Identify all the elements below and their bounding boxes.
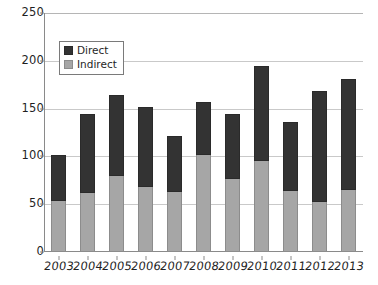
bar-group-2012[interactable]	[312, 13, 328, 252]
bar-segment-direct-2004[interactable]	[80, 114, 96, 192]
bar-group-2011[interactable]	[283, 13, 299, 252]
bar-group-2009[interactable]	[225, 13, 241, 252]
x-tick-label-2005: 2005	[101, 260, 133, 272]
bar-group-2010[interactable]	[254, 13, 270, 252]
bar-stack-2008	[196, 102, 212, 252]
bar-group-2013[interactable]	[341, 13, 357, 252]
bar-segment-indirect-2012[interactable]	[312, 202, 328, 252]
bar-group-2007[interactable]	[167, 13, 183, 252]
bar-segment-indirect-2008[interactable]	[196, 155, 212, 252]
legend-label-direct: Direct	[77, 45, 108, 56]
bar-segment-indirect-2007[interactable]	[167, 192, 183, 252]
bar-segment-direct-2012[interactable]	[312, 91, 328, 202]
y-tick-label-0: 0	[4, 246, 44, 258]
x-tick-label-2004: 2004	[72, 260, 104, 272]
bar-stack-2011	[283, 122, 299, 252]
bar-stack-2005	[109, 95, 125, 252]
y-tick-label-50: 50	[4, 198, 44, 210]
bar-stack-2009	[225, 114, 241, 252]
legend-label-indirect: Indirect	[77, 59, 117, 70]
bar-segment-direct-2013[interactable]	[341, 79, 357, 190]
y-tick-label-250: 250	[4, 7, 44, 19]
bar-segment-indirect-2003[interactable]	[51, 201, 67, 252]
x-tick-label-2010: 2010	[246, 260, 278, 272]
stacked-bar-chart: 050100150200250 200320042005200620072008…	[0, 0, 378, 285]
bar-segment-indirect-2013[interactable]	[341, 190, 357, 252]
chart-legend: Direct Indirect	[59, 41, 124, 75]
y-tick-label-200: 200	[4, 55, 44, 67]
bar-segment-direct-2008[interactable]	[196, 102, 212, 156]
x-tick-label-2006: 2006	[130, 260, 162, 272]
bar-group-2006[interactable]	[138, 13, 154, 252]
bar-group-2008[interactable]	[196, 13, 212, 252]
bar-segment-indirect-2004[interactable]	[80, 193, 96, 252]
x-axis: 2003200420052006200720082009201020112012…	[44, 256, 363, 280]
x-tick-label-2009: 2009	[217, 260, 249, 272]
bar-stack-2007	[167, 136, 183, 252]
y-axis: 050100150200250	[0, 13, 44, 252]
bar-segment-indirect-2006[interactable]	[138, 187, 154, 252]
x-tick-label-2008: 2008	[188, 260, 220, 272]
x-tick-label-2003: 2003	[43, 260, 75, 272]
bar-stack-2010	[254, 66, 270, 252]
bar-stack-2004	[80, 114, 96, 252]
bar-segment-direct-2007[interactable]	[167, 136, 183, 191]
bar-segment-direct-2003[interactable]	[51, 155, 67, 202]
bar-segment-direct-2005[interactable]	[109, 95, 125, 176]
bar-segment-direct-2006[interactable]	[138, 107, 154, 187]
bar-stack-2006	[138, 107, 154, 252]
legend-item-direct[interactable]: Direct	[64, 45, 117, 56]
x-tick-label-2011: 2011	[275, 260, 307, 272]
bar-segment-direct-2009[interactable]	[225, 114, 241, 179]
bar-segment-indirect-2005[interactable]	[109, 176, 125, 252]
bar-segment-indirect-2011[interactable]	[283, 191, 299, 252]
bar-segment-direct-2010[interactable]	[254, 66, 270, 162]
bar-segment-indirect-2010[interactable]	[254, 161, 270, 252]
x-tick-label-2013: 2013	[333, 260, 365, 272]
bar-stack-2012	[312, 91, 328, 252]
y-tick-label-150: 150	[4, 103, 44, 115]
bar-stack-2013	[341, 79, 357, 252]
x-tick-label-2007: 2007	[159, 260, 191, 272]
bar-segment-indirect-2009[interactable]	[225, 179, 241, 252]
x-tick-label-2012: 2012	[304, 260, 336, 272]
legend-swatch-direct-icon	[64, 46, 73, 55]
y-tick-label-100: 100	[4, 151, 44, 163]
legend-swatch-indirect-icon	[64, 60, 73, 69]
bar-segment-direct-2011[interactable]	[283, 122, 299, 191]
legend-item-indirect[interactable]: Indirect	[64, 59, 117, 70]
bar-stack-2003	[51, 155, 67, 253]
